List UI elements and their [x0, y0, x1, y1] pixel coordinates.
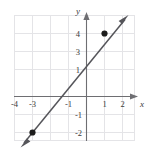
coordinate-plane-figure: -4 -3 -1 1 2 4 3 1 -1 -2 y x — [0, 0, 155, 155]
y-tick-label: -2 — [75, 128, 82, 138]
data-point-neg3-neg2 — [29, 129, 35, 135]
x-tick-label: 1 — [102, 99, 106, 109]
line-arrowhead-up-right-icon — [119, 15, 129, 24]
x-tick-labels: -4 -3 -1 1 2 — [11, 99, 125, 109]
y-axis-name: y — [75, 6, 80, 16]
x-tick-label: -3 — [29, 99, 36, 109]
y-tick-labels: 4 3 1 -1 -2 — [75, 29, 82, 138]
line-segment — [24, 20, 125, 144]
x-tick-label: -1 — [65, 99, 72, 109]
y-axis — [83, 12, 89, 141]
y-tick-label: -1 — [75, 110, 82, 120]
y-tick-label: 1 — [76, 65, 80, 75]
graph-canvas: -4 -3 -1 1 2 4 3 1 -1 -2 y x — [0, 0, 155, 155]
x-tick-label: 2 — [120, 99, 124, 109]
line-arrowhead-down-left-icon — [21, 139, 31, 148]
x-axis-name: x — [139, 99, 144, 109]
x-tick-label: -4 — [11, 99, 19, 109]
data-point-1-4 — [101, 30, 107, 36]
y-tick-label: 3 — [76, 47, 80, 57]
